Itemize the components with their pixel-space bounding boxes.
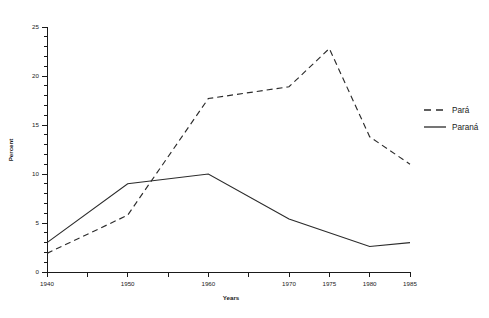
y-tick-label: 0 [36,268,40,275]
x-tick-label: 1950 [121,280,135,287]
x-tick-label: 1985 [403,280,417,287]
y-tick-label: 25 [32,23,39,30]
x-axis-title: Years [223,294,240,301]
chart-canvas: 0510152025 1940195019601970197519801985 … [0,0,489,318]
y-axis-title: Percent [7,139,14,162]
legend-label: Paraná [452,123,479,132]
legend-label: Pará [452,106,470,115]
series-line-parana [47,174,410,247]
y-tick-label: 10 [32,170,39,177]
y-axis: 0510152025 [32,23,47,275]
x-tick-label: 1940 [40,280,54,287]
x-tick-label: 1980 [363,280,377,287]
y-tick-label: 20 [32,72,39,79]
series-line-para [47,49,410,254]
y-tick-label: 5 [36,219,40,226]
x-tick-label: 1975 [322,280,336,287]
x-tick-label: 1960 [201,280,215,287]
line-chart: 0510152025 1940195019601970197519801985 … [0,0,489,318]
x-axis: 1940195019601970197519801985 [40,272,417,287]
y-tick-label: 15 [32,121,39,128]
x-tick-label: 1970 [282,280,296,287]
series-lines [47,49,410,254]
chart-legend: ParáParaná [424,106,479,132]
